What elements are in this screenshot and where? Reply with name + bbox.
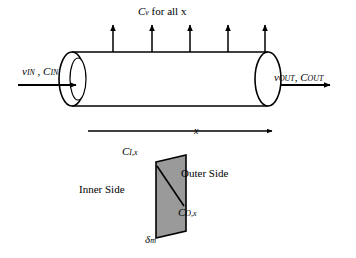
inner-concentration-label: CI,x [122, 146, 137, 157]
inner-side-label: Inner Side [79, 184, 125, 195]
inlet-label: vIN , CIN [22, 66, 58, 77]
tube-body [59, 52, 281, 106]
axial-coordinate-label: x [194, 126, 198, 136]
membrane-thickness-label: δm [145, 234, 156, 245]
outer-concentration-label: CO,x [178, 207, 197, 218]
membrane-detail [143, 155, 186, 240]
permeate-flux-label: Cv for all x [138, 6, 186, 17]
diagram-svg [0, 0, 356, 258]
permeate-flux-arrows [113, 25, 265, 52]
figure-canvas: Cv for all x vIN , CIN vOUT, COUT x CI,x… [0, 0, 356, 258]
outer-side-label: Outer Side [181, 168, 228, 179]
outlet-label: vOUT, COUT [274, 72, 323, 83]
tube-left-inner-mouth [70, 58, 86, 100]
